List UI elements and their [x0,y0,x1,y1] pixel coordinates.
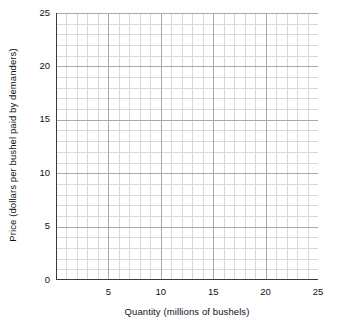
chart-figure: Price (dollars per bushel paid by demand… [0,0,349,327]
x-tick-label: 15 [198,287,228,297]
x-axis-tick-labels: 5 10 15 20 25 [56,287,318,301]
axis-tick-marks [56,14,318,281]
axis-lines [56,13,318,280]
x-tick-label: 25 [303,287,333,297]
x-axis-title: Quantity (millions of bushels) [55,306,319,317]
x-tick-label: 20 [251,287,281,297]
x-tick-label: 5 [93,287,123,297]
y-tick-label: 0 [28,275,50,285]
y-tick-label: 5 [28,221,50,231]
x-tick-label: 10 [146,287,176,297]
y-axis-title: Price (dollars per bushel paid by demand… [4,5,22,285]
y-axis-tick-labels: 25 20 15 10 5 0 [26,0,50,327]
minor-gridlines [56,13,318,280]
y-tick-label: 20 [28,61,50,71]
major-gridlines [56,13,318,280]
plot-area [56,13,318,280]
grid-svg [56,13,318,280]
y-tick-label: 15 [28,114,50,124]
y-tick-label: 10 [28,168,50,178]
y-tick-label: 25 [28,8,50,18]
